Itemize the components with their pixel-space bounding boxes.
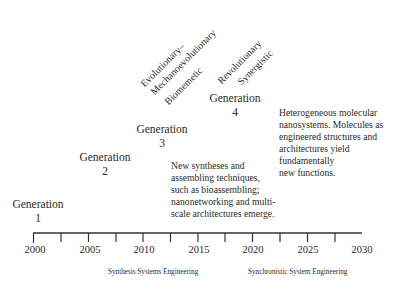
generation-1-label: Generation 1 <box>10 197 66 225</box>
era-label-synthesis: Synthesis Systems Engineering <box>108 268 198 276</box>
generation-3-title: Generation <box>134 122 190 136</box>
tick-label-2000: 2000 <box>20 244 50 255</box>
tick-label-2015: 2015 <box>184 244 214 255</box>
desc-gen3-line: such as bioassembling; <box>171 184 275 196</box>
tick-label-2030: 2030 <box>347 244 377 255</box>
tick-label-2020: 2020 <box>238 244 268 255</box>
generation-1-title: Generation <box>10 197 66 211</box>
generation-4-label: Generation 4 <box>207 91 263 119</box>
generation-4-number: 4 <box>207 105 263 119</box>
tick-label-2010: 2010 <box>129 244 159 255</box>
desc-gen4-line: Heterogeneous molecular <box>279 107 383 119</box>
generation-1-number: 1 <box>10 211 66 225</box>
desc-gen3-line: scale architectures emerge. <box>171 208 275 220</box>
generation-2-number: 2 <box>77 164 133 178</box>
generation-3-number: 3 <box>134 136 190 150</box>
desc-gen4-line: new functions. <box>279 167 383 179</box>
desc-gen4-line: architectures yield <box>279 143 383 155</box>
generation-2-label: Generation 2 <box>77 150 133 178</box>
desc-gen3-line: nanonetworking and multi- <box>171 196 275 208</box>
tick-label-2025: 2025 <box>293 244 323 255</box>
description-generation-3: New syntheses and assembling techniques,… <box>171 160 275 220</box>
generation-4-title: Generation <box>207 91 263 105</box>
desc-gen4-line: fundamentally <box>279 155 383 167</box>
desc-gen4-line: nanosystems. Molecules as <box>279 119 383 131</box>
desc-gen4-line: engineered structures and <box>279 131 383 143</box>
generation-3-label: Generation 3 <box>134 122 190 150</box>
era-label-synchronistic: Synchronistic System Engineering <box>248 268 347 276</box>
generation-2-title: Generation <box>77 150 133 164</box>
desc-gen3-line: New syntheses and <box>171 160 275 172</box>
description-generation-4: Heterogeneous molecular nanosystems. Mol… <box>279 107 383 179</box>
tick-label-2005: 2005 <box>75 244 105 255</box>
desc-gen3-line: assembling techniques, <box>171 172 275 184</box>
